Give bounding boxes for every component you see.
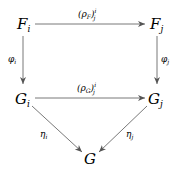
node-Gi: Gi [15, 90, 30, 109]
label-left: φi [8, 54, 16, 65]
commutative-diagram: Fi Fj Gi Gj G (ρF)ij (ρG)ij φi φj ηi ηj [0, 0, 180, 174]
label-top: (ρF)ij [78, 7, 97, 22]
node-G: G [84, 150, 96, 168]
arrow-diag-right [99, 106, 147, 152]
label-diag-right: ηj [126, 129, 133, 141]
label-right: φj [161, 54, 169, 66]
node-Fi: Fi [16, 15, 30, 34]
label-middle: (ρG)ij [77, 81, 96, 96]
node-Fj: Fj [149, 15, 163, 34]
label-diag-left: ηi [40, 129, 47, 140]
node-Gj: Gj [148, 90, 163, 109]
